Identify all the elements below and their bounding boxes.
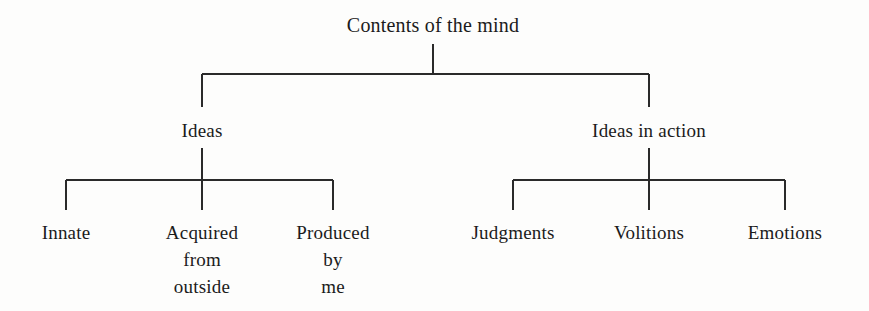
node-leaf-produced-by-me: Produced by me	[296, 219, 369, 300]
node-leaf-innate: Innate	[42, 219, 91, 246]
node-leaf-judgments: Judgments	[471, 219, 554, 246]
connector-lines	[0, 0, 869, 311]
node-leaf-volitions: Volitions	[614, 219, 684, 246]
node-leaf-acquired-from-outside: Acquired from outside	[166, 219, 238, 300]
node-branch-ideas-in-action: Ideas in action	[592, 117, 706, 144]
tree-diagram: Contents of the mind Ideas Ideas in acti…	[0, 0, 869, 311]
node-root: Contents of the mind	[347, 12, 519, 39]
node-branch-ideas: Ideas	[181, 117, 222, 144]
node-leaf-emotions: Emotions	[748, 219, 822, 246]
